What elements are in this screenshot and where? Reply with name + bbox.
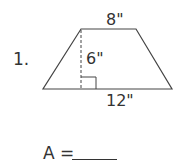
area-label: A = [43, 143, 74, 163]
answer-blank[interactable] [72, 159, 117, 160]
height-label: 6" [86, 49, 104, 68]
bottom-base-label: 12" [106, 91, 134, 110]
right-angle-marker [81, 77, 96, 89]
top-base-label: 8" [106, 10, 124, 29]
trapezoid-figure [0, 0, 190, 166]
